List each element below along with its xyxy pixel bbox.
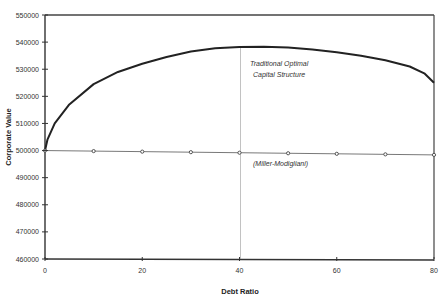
y-tick-label: 470000 [16,228,39,235]
annotation-miller-modigliani: (Miller-Modigliani) [253,160,308,168]
y-tick-label: 540000 [16,39,39,46]
corporate-value-chart: 4600004700004800004900005000005100005200… [0,0,443,298]
y-axis-ticks: 4600004700004800004900005000005100005200… [16,12,48,263]
mm-data-point-marker [335,152,338,155]
mm-data-point-marker [238,151,241,154]
plot-frame [45,15,434,260]
y-axis-title: Corporate Value [4,108,13,166]
mm-data-point-marker [287,152,290,155]
y-tick-label: 500000 [16,147,39,154]
annotation-traditional-line1: Traditional Optimal [250,60,309,68]
x-tick-label: 40 [236,267,244,274]
y-tick-label: 520000 [16,93,39,100]
traditional-curve [45,47,434,151]
x-tick-label: 0 [43,267,47,274]
annotation-traditional-line2: Capital Structure [253,71,305,79]
mm-data-point-marker [141,150,144,153]
mm-data-point-marker [92,149,95,152]
x-tick-label: 60 [333,267,341,274]
mm-data-point-marker [189,151,192,154]
y-tick-label: 510000 [16,120,39,127]
x-tick-label: 80 [430,267,438,274]
mm-data-point-marker [384,153,387,156]
y-tick-label: 550000 [16,12,39,19]
y-tick-label: 460000 [16,256,39,263]
mm-data-point-marker [432,153,435,156]
y-tick-label: 480000 [16,201,39,208]
y-tick-label: 490000 [16,174,39,181]
y-tick-label: 530000 [16,66,39,73]
series-layer [43,47,435,157]
x-axis-title: Debt Ratio [221,287,259,296]
x-tick-label: 20 [138,267,146,274]
